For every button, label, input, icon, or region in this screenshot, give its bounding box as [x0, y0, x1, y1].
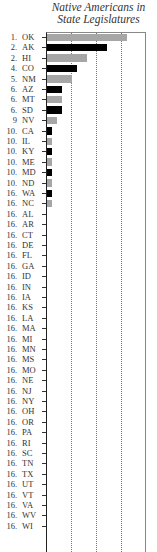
rank-label: 6. — [0, 105, 17, 115]
state-label: HI — [22, 53, 31, 63]
bar-row-ar: 16.AR — [0, 219, 157, 229]
state-label: NE — [22, 375, 33, 385]
state-label: LA — [22, 313, 33, 323]
bar-row-de: 16.DE — [0, 240, 157, 250]
rank-label: 16. — [0, 458, 17, 468]
state-label: VA — [22, 500, 33, 510]
state-label: OH — [22, 406, 34, 416]
bar-row-wa: 16.WA — [0, 188, 157, 198]
axis-tick — [42, 214, 46, 215]
rank-label: 16. — [0, 261, 17, 271]
state-label: CO — [22, 63, 34, 73]
rank-label: 16. — [0, 282, 17, 292]
axis-tick — [42, 359, 46, 360]
axis-tick — [42, 505, 46, 506]
state-label: KY — [22, 146, 34, 156]
rank-label: 4. — [0, 63, 17, 73]
bar-row-ks: 16.KS — [0, 302, 157, 312]
bar-row-nd: 10.ND — [0, 178, 157, 188]
bar-row-mo: 16.MO — [0, 365, 157, 375]
bar — [47, 200, 52, 208]
axis-tick — [42, 432, 46, 433]
state-label: NM — [22, 74, 36, 84]
bar-row-va: 16.VA — [0, 500, 157, 510]
state-label: FL — [22, 250, 32, 260]
state-label: AL — [22, 209, 33, 219]
state-label: SD — [22, 105, 33, 115]
axis-tick — [42, 47, 46, 48]
state-label: MI — [22, 334, 32, 344]
state-label: IN — [22, 282, 31, 292]
axis-tick — [42, 89, 46, 90]
rank-label: 10. — [0, 178, 17, 188]
bar — [47, 54, 87, 62]
rank-label: 10. — [0, 126, 17, 136]
rank-label: 16. — [0, 313, 17, 323]
axis-tick — [42, 224, 46, 225]
bar-row-in: 16.IN — [0, 282, 157, 292]
rank-label: 16. — [0, 490, 17, 500]
state-label: NV — [22, 115, 34, 125]
bar-row-az: 6.AZ — [0, 84, 157, 94]
bar — [47, 96, 62, 104]
bar-row-sd: 6.SD — [0, 105, 157, 115]
rank-label: 16. — [0, 417, 17, 427]
axis-tick — [42, 266, 46, 267]
axis-tick — [42, 141, 46, 142]
state-label: NY — [22, 396, 34, 406]
rank-label: 16. — [0, 354, 17, 364]
rank-label: 16. — [0, 240, 17, 250]
axis-tick — [42, 463, 46, 464]
state-label: AZ — [22, 84, 33, 94]
state-label: GA — [22, 261, 34, 271]
axis-tick — [42, 68, 46, 69]
axis-tick — [42, 380, 46, 381]
bar-row-oh: 16.OH — [0, 406, 157, 416]
bar-row-ny: 16.NY — [0, 396, 157, 406]
bar-row-ri: 16.RI — [0, 438, 157, 448]
chart-title-line-2: State Legislatures — [40, 13, 157, 25]
bar-row-ia: 16.IA — [0, 292, 157, 302]
bar-row-la: 16.LA — [0, 313, 157, 323]
bar-row-nm: 5.NM — [0, 74, 157, 84]
state-label: WI — [22, 521, 33, 531]
axis-tick — [42, 339, 46, 340]
rank-label: 9 — [0, 115, 17, 125]
chart-title: Native Americans in State Legislatures — [40, 1, 157, 25]
axis-tick — [42, 370, 46, 371]
bar-row-ga: 16.GA — [0, 261, 157, 271]
bar — [47, 148, 52, 156]
rank-label: 16. — [0, 219, 17, 229]
bar-row-nc: 16.NC — [0, 198, 157, 208]
rank-label: 1. — [0, 32, 17, 42]
axis-tick — [42, 328, 46, 329]
state-label: IA — [22, 292, 31, 302]
axis-tick — [42, 287, 46, 288]
rank-label: 10. — [0, 167, 17, 177]
axis-tick — [42, 235, 46, 236]
bar-row-tx: 16.TX — [0, 469, 157, 479]
bar-row-me: 10.ME — [0, 157, 157, 167]
bar-row-mn: 16.MN — [0, 344, 157, 354]
axis-tick — [42, 349, 46, 350]
bar-row-or: 16.OR — [0, 417, 157, 427]
axis-tick — [42, 276, 46, 277]
axis-tick — [42, 515, 46, 516]
rank-label: 5. — [0, 74, 17, 84]
axis-tick — [42, 162, 46, 163]
bar-row-fl: 16.FL — [0, 250, 157, 260]
state-label: CA — [22, 126, 34, 136]
state-label: ID — [22, 271, 31, 281]
state-label: NC — [22, 198, 34, 208]
axis-tick — [42, 318, 46, 319]
state-label: ME — [22, 157, 35, 167]
axis-tick — [42, 37, 46, 38]
axis-tick — [42, 245, 46, 246]
bar-row-tn: 16.TN — [0, 458, 157, 468]
state-label: AR — [22, 219, 34, 229]
state-label: MS — [22, 354, 34, 364]
bar — [47, 34, 127, 42]
rank-label: 16. — [0, 344, 17, 354]
bar-row-nj: 16.NJ — [0, 386, 157, 396]
rank-label: 6. — [0, 94, 17, 104]
